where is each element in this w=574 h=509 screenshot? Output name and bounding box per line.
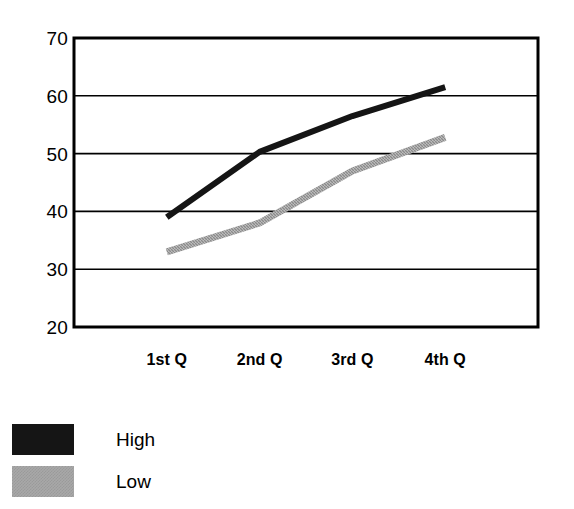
legend-item: Low — [12, 460, 312, 502]
black-swatch — [12, 424, 74, 455]
y-tick-label: 30 — [8, 260, 68, 279]
gray-swatch — [12, 466, 74, 497]
legend-item: High — [12, 418, 312, 460]
plot-svg — [0, 0, 574, 400]
y-axis-tick-labels: 203040506070 — [0, 0, 68, 400]
chart-legend: HighLow — [12, 418, 312, 502]
y-tick-label: 70 — [8, 29, 68, 48]
legend-item-label: High — [116, 430, 155, 449]
line-chart: 203040506070 1st Q2nd Q3rd Q4th Q HighLo… — [0, 0, 574, 509]
x-axis-tick-labels: 1st Q2nd Q3rd Q4th Q — [0, 352, 574, 382]
legend-item-label: Low — [116, 472, 151, 491]
y-tick-label: 20 — [8, 318, 68, 337]
plot-area — [0, 0, 574, 400]
y-tick-label: 50 — [8, 145, 68, 164]
y-tick-label: 40 — [8, 202, 68, 221]
x-tick-label: 4th Q — [385, 352, 505, 368]
y-tick-label: 60 — [8, 87, 68, 106]
series-line-low — [167, 137, 445, 251]
plot-frame — [74, 38, 538, 327]
